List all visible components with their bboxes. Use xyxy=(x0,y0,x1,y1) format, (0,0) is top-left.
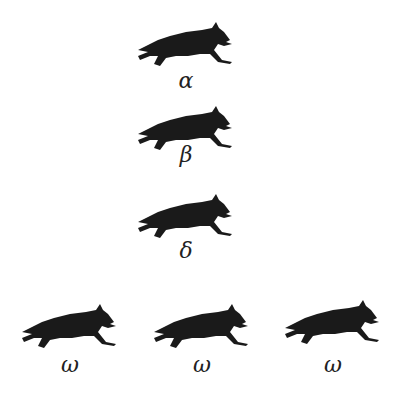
rank-label-delta: δ xyxy=(136,238,236,263)
wolf-running-icon xyxy=(136,192,236,240)
rank-label-omega: ω xyxy=(20,352,120,377)
rank-label-omega: ω xyxy=(152,352,252,377)
wolf-running-icon xyxy=(136,20,236,68)
wolf-running-icon xyxy=(20,302,120,350)
wolf-running-icon xyxy=(283,298,383,346)
rank-label-beta: β xyxy=(136,142,236,167)
rank-label-alpha: α xyxy=(136,68,236,93)
rank-label-omega: ω xyxy=(283,352,383,377)
wolf-running-icon xyxy=(152,302,252,350)
